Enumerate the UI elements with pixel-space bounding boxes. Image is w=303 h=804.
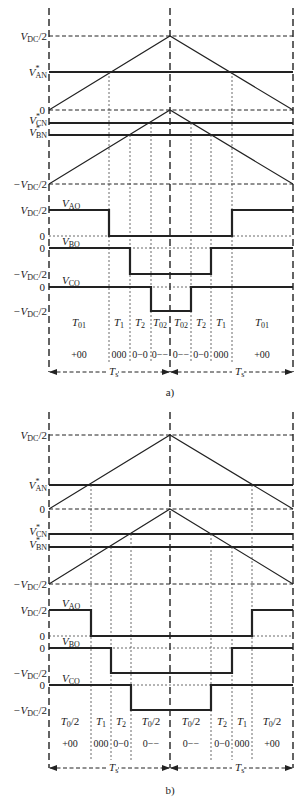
state-label: 000 bbox=[235, 738, 250, 749]
switching-states: +00 000 0−0 0−− 0−− 0−0 000 +00 bbox=[62, 738, 280, 749]
label-vao-zero: 0 bbox=[40, 630, 46, 642]
interval-label: T1 bbox=[96, 715, 106, 729]
interval-label: T02 bbox=[174, 316, 188, 330]
label-van-ref: V*AN bbox=[29, 477, 48, 493]
label-vco: VCO bbox=[62, 672, 80, 686]
state-label: 000 bbox=[214, 349, 229, 360]
panel-b: VDC/2 V*AN 0 V*CN V*BN −VDC/2 VDC/2 0 0 … bbox=[13, 412, 293, 797]
label-vbo-zero: 0 bbox=[40, 242, 46, 254]
state-label: 0−− bbox=[183, 738, 200, 749]
label-van-ref: V*AN bbox=[29, 64, 48, 80]
label-zero: 0 bbox=[40, 503, 46, 515]
interval-label: T01 bbox=[255, 316, 269, 330]
vao-waveform bbox=[49, 610, 293, 636]
interval-labels: T0/2 T1 T2 T0/2 T0/2 T2 T1 T0/2 bbox=[61, 715, 282, 729]
state-label: 0−− bbox=[173, 349, 190, 360]
state-label: +00 bbox=[71, 349, 87, 360]
state-label: +00 bbox=[254, 349, 270, 360]
state-label: 000 bbox=[94, 738, 109, 749]
label-vco-zero: 0 bbox=[40, 679, 46, 691]
label-vao: VAO bbox=[62, 597, 81, 611]
vao-waveform bbox=[49, 210, 293, 236]
pwm-switching-diagram: VDC/2 V*AN 0 V*CN V*BN −VDC/2 VDC/2 0 0 … bbox=[0, 0, 303, 804]
label-vbo: VBO bbox=[62, 635, 80, 649]
interval-label: T0/2 bbox=[61, 715, 80, 729]
label-vao-zero: 0 bbox=[40, 230, 46, 242]
caption-b: b) bbox=[165, 784, 175, 797]
interval-label: T0/2 bbox=[263, 715, 282, 729]
interval-label: T02 bbox=[153, 316, 167, 330]
label-neg-vdc-half: −VDC/2 bbox=[13, 578, 47, 592]
interval-label: T2 bbox=[196, 316, 206, 330]
interval-label: T1 bbox=[237, 715, 247, 729]
state-label: +00 bbox=[264, 738, 280, 749]
label-vao: VAO bbox=[62, 197, 81, 211]
label-vbo-zero: 0 bbox=[40, 642, 46, 654]
vco-waveform bbox=[49, 685, 293, 710]
label-vco: VCO bbox=[62, 274, 80, 288]
interval-label: T2 bbox=[116, 715, 126, 729]
state-label: 0−− bbox=[152, 349, 169, 360]
label-zero: 0 bbox=[40, 104, 46, 116]
label-vao-high: VDC/2 bbox=[21, 604, 47, 618]
label-vco-low: −VDC/2 bbox=[13, 704, 47, 718]
lower-carrier-triangle bbox=[49, 110, 293, 184]
panel-a: VDC/2 V*AN 0 V*CN V*BN −VDC/2 VDC/2 0 0 … bbox=[13, 8, 293, 399]
label-vbo: VBO bbox=[62, 235, 80, 249]
vco-waveform bbox=[49, 287, 293, 311]
interval-label: T1 bbox=[216, 316, 226, 330]
vbo-waveform bbox=[49, 648, 293, 673]
vbo-waveform bbox=[49, 248, 293, 274]
state-label: 0−0 bbox=[113, 738, 129, 749]
label-neg-vdc-half: −VDC/2 bbox=[13, 178, 47, 192]
interval-label: T1 bbox=[114, 316, 124, 330]
upper-carrier-triangle bbox=[49, 435, 293, 509]
state-label: 0−− bbox=[143, 738, 160, 749]
state-label: 0−0 bbox=[214, 738, 230, 749]
interval-label: T0/2 bbox=[142, 715, 161, 729]
interval-label: T01 bbox=[72, 316, 86, 330]
state-label: +00 bbox=[62, 738, 78, 749]
label-vbo-low: −VDC/2 bbox=[13, 268, 47, 282]
label-vdc-half: VDC/2 bbox=[21, 429, 47, 443]
label-vao-high: VDC/2 bbox=[21, 204, 47, 218]
caption-a: a) bbox=[166, 386, 175, 399]
state-label: 000 bbox=[112, 349, 127, 360]
label-vco-low: −VDC/2 bbox=[13, 305, 47, 319]
interval-label: T0/2 bbox=[182, 715, 201, 729]
state-label: 0−0 bbox=[132, 349, 148, 360]
label-vco-zero: 0 bbox=[40, 281, 46, 293]
state-label: 0−0 bbox=[193, 349, 209, 360]
interval-label: T2 bbox=[217, 715, 227, 729]
label-vdc-half: VDC/2 bbox=[21, 30, 47, 44]
interval-label: T2 bbox=[135, 316, 145, 330]
